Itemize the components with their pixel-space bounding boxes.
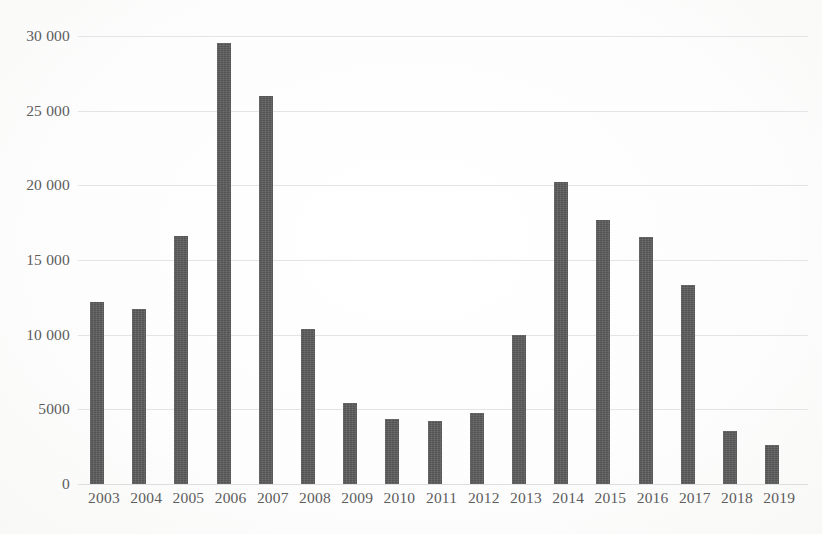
bar-2007 bbox=[259, 96, 273, 484]
bar-2019 bbox=[765, 445, 779, 484]
y-axis-label-15000: 15 000 bbox=[0, 251, 70, 269]
y-axis-label-0: 0 bbox=[0, 475, 70, 493]
bar-2006 bbox=[217, 43, 231, 484]
y-axis-label-20000: 20 000 bbox=[0, 176, 70, 194]
bar-2004 bbox=[132, 309, 146, 484]
bar-2015 bbox=[596, 220, 610, 484]
bar-2016 bbox=[639, 237, 653, 484]
bar-2011 bbox=[428, 421, 442, 484]
bar-2009 bbox=[343, 403, 357, 484]
bar-2018 bbox=[723, 431, 737, 484]
bar-2017 bbox=[681, 285, 695, 484]
y-axis-label-10000: 10 000 bbox=[0, 326, 70, 344]
y-axis-label-30000: 30 000 bbox=[0, 27, 70, 45]
bar-2008 bbox=[301, 329, 315, 484]
y-axis-label-5000: 5000 bbox=[0, 400, 70, 418]
bar-chart: 0500010 00015 00020 00025 00030 000 2003… bbox=[0, 0, 822, 534]
bar-2013 bbox=[512, 335, 526, 484]
bar-2012 bbox=[470, 413, 484, 484]
y-axis: 0500010 00015 00020 00025 00030 000 bbox=[0, 36, 70, 484]
x-axis: 2003200420052006200720082009201020112012… bbox=[78, 489, 808, 517]
bar-2010 bbox=[385, 419, 399, 484]
bar-2003 bbox=[90, 302, 104, 484]
chart-page: 0500010 00015 00020 00025 00030 000 2003… bbox=[0, 0, 822, 534]
bar-2005 bbox=[174, 236, 188, 484]
bar-series bbox=[78, 36, 808, 484]
gridline-0 bbox=[78, 484, 808, 485]
bar-2014 bbox=[554, 182, 568, 484]
y-axis-label-25000: 25 000 bbox=[0, 102, 70, 120]
x-axis-label-2019: 2019 bbox=[752, 489, 806, 507]
